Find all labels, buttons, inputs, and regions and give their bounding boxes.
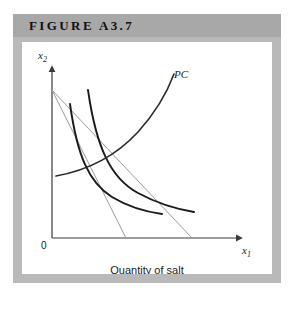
plot-panel: x2 x1 PC 0 Quantity of salt xyxy=(22,42,272,274)
price-consumption-curve-label: PC xyxy=(174,68,188,80)
x-axis-label-subscript: 1 xyxy=(247,250,251,259)
chart-caption: Quantity of salt xyxy=(22,264,272,274)
y-axis-label: x2 xyxy=(38,49,47,64)
figure-number-label: FIGURE A3.7 xyxy=(29,18,134,34)
y-axis-label-subscript: 2 xyxy=(43,55,47,64)
origin-label: 0 xyxy=(41,240,47,251)
budget-line-2 xyxy=(52,90,126,238)
chart-canvas xyxy=(22,42,272,274)
x-axis-label: x1 xyxy=(242,244,251,259)
budget-line-1 xyxy=(52,90,192,238)
figure-root: FIGURE A3.7 x2 x1 P xyxy=(0,0,294,316)
figure-header-bar: FIGURE A3.7 xyxy=(13,14,281,37)
